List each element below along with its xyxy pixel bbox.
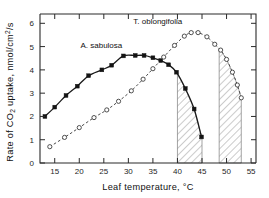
x-tick-label: 25 [99,167,108,176]
x-tick-label: 50 [222,167,231,176]
data-point [64,94,68,98]
figure-container: 0123456 152025303540455055 A. sabulosaT.… [0,0,269,198]
series-curves [45,32,241,147]
data-point [182,34,186,38]
x-axis-title: Leaf temperature, °C [102,182,193,192]
data-point [77,126,81,130]
band-a-sabulosa [177,74,202,163]
data-point [141,77,145,81]
data-point [167,63,171,67]
data-point [100,68,104,72]
x-tick-label: 40 [173,167,182,176]
data-point [183,87,187,91]
y-tick-label: 6 [30,19,35,28]
data-point [133,54,137,58]
x-tick-label: 15 [50,167,59,176]
band-t-oblongifolia [219,49,241,163]
y-axis-title: Rate of CO2 uptake, nmol/cm2/s [4,22,16,162]
data-point [142,54,146,58]
data-point [75,84,79,88]
x-tick-label: 45 [198,167,207,176]
y-title-mid: uptake, nmol/cm [5,34,15,109]
y-tick-label: 4 [30,66,35,75]
data-point [53,105,57,109]
shaded-bands [177,49,241,163]
data-point [151,56,155,60]
data-point [116,99,120,103]
data-point [213,42,217,46]
x-tick-label: 55 [247,167,256,176]
series-points-2 [48,31,244,149]
x-tick-label: 30 [124,167,133,176]
data-point [205,35,209,39]
data-point [196,31,200,35]
data-point [200,135,204,139]
y-tick-label: 2 [30,112,35,121]
y-title-post: /s [5,22,15,30]
data-point [162,55,166,59]
co2-uptake-chart: 0123456 152025303540455055 A. sabulosaT.… [0,0,269,198]
data-point [105,108,109,112]
data-point [175,70,179,74]
y-tick-label: 5 [30,43,35,52]
series-annotations: A. sabulosaT. oblongifolia [80,17,182,49]
data-point [224,57,228,61]
y-title-pre: Rate of CO [5,113,15,162]
x-tick-label: 35 [148,167,157,176]
data-point [235,83,239,87]
data-point [92,116,96,120]
data-point [230,70,234,74]
data-point [159,59,163,63]
data-point [129,89,133,93]
data-point [219,48,223,52]
data-point [122,54,126,58]
data-point [172,43,176,47]
y-tick-label: 1 [30,136,35,145]
data-point [189,31,193,35]
x-tick-label: 20 [75,167,84,176]
svg-text:Rate of CO2 uptake, nmol/cm2/: Rate of CO2 uptake, nmol/cm2/s [4,22,16,162]
series-label-1: A. sabulosa [80,41,122,50]
series-label-2: T. oblongifolia [133,17,182,26]
data-point [62,135,66,139]
data-point [48,145,52,149]
data-point [151,67,155,71]
data-point [87,74,91,78]
data-point [239,96,243,100]
y-tick-label: 3 [30,89,35,98]
data-point [192,107,196,111]
data-point [110,63,114,67]
y-tick-label: 0 [30,159,35,168]
